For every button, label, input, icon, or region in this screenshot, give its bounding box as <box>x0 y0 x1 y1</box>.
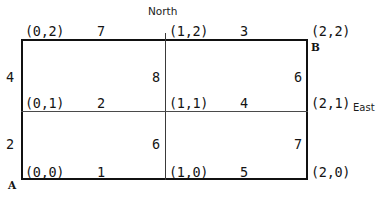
edge-weight-0-2-to-1-2: 7 <box>97 25 105 39</box>
node-label-1-2: (1,2) <box>169 25 208 39</box>
grid-network-figure: North East A B (0,2) (1,2) (2,2) (0,1) (… <box>0 0 389 199</box>
compass-east-label: East <box>353 103 375 113</box>
terminal-label-b: B <box>311 42 320 53</box>
node-label-1-0: (1,0) <box>169 166 208 180</box>
terminal-label-a: A <box>8 180 16 191</box>
node-label-0-0: (0,0) <box>25 166 64 180</box>
node-label-0-2: (0,2) <box>25 25 64 39</box>
edge-weight-0-0-to-1-0: 1 <box>97 166 105 180</box>
node-label-1-1: (1,1) <box>169 97 208 111</box>
node-label-2-0: (2,0) <box>311 166 350 180</box>
edge-weight-2-0-to-2-1: 7 <box>294 138 302 152</box>
edge-weight-0-1-to-0-2: 4 <box>6 71 14 85</box>
node-label-2-1: (2,1) <box>311 97 350 111</box>
edge-weight-1-1-to-2-1: 4 <box>240 97 248 111</box>
compass-north-label: North <box>148 6 177 17</box>
node-label-0-1: (0,1) <box>25 97 64 111</box>
node-label-2-2: (2,2) <box>311 25 350 39</box>
edge-weight-0-1-to-1-1: 2 <box>97 97 105 111</box>
edge-weight-1-0-to-2-0: 5 <box>240 166 248 180</box>
edge-weight-0-0-to-0-1: 2 <box>6 138 14 152</box>
edge-weight-1-0-to-1-1: 6 <box>152 138 160 152</box>
edge-weight-1-2-to-2-2: 3 <box>240 25 248 39</box>
grid-horizontal-divider <box>21 111 308 112</box>
edge-weight-2-1-to-2-2: 6 <box>294 71 302 85</box>
edge-weight-1-1-to-1-2: 8 <box>152 71 160 85</box>
grid-vertical-divider <box>165 33 166 180</box>
